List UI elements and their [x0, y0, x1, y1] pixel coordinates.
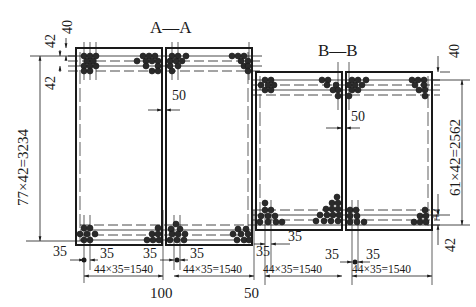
aa-spacing-dim-2: 35	[143, 247, 157, 261]
aa-height-dim: 77×42=3234	[16, 129, 31, 206]
drawing-canvas	[0, 0, 476, 307]
bb-left-edge-dim: 35	[288, 230, 302, 244]
bb-spacing-dim-2: 35	[366, 248, 380, 262]
between-sections-dim: 50	[244, 286, 259, 301]
bb-spacing-dim-1: 35	[325, 248, 339, 262]
bb-top-cover-dim: 40	[448, 44, 462, 58]
section-bb-right-panel	[346, 72, 432, 230]
aa-center-spacing-dim: 100	[150, 286, 173, 301]
section-bb-left-panel	[256, 72, 342, 230]
aa-top-cover-dim: 40	[61, 20, 75, 34]
bb-width-left-dim: 44×35=1540	[263, 264, 322, 276]
section-aa-title: A—A	[150, 19, 192, 36]
aa-spacing-dim-3: 35	[190, 247, 204, 261]
aa-width-right-dim: 44×35=1540	[183, 264, 242, 276]
aa-width-left-dim: 44×35=1540	[94, 264, 153, 276]
aa-gap-dim: 50	[172, 89, 186, 103]
section-bb-title: B—B	[318, 42, 358, 59]
bb-width-right-dim: 44×35=1540	[352, 264, 411, 276]
aa-spacing-dim-4: 35	[256, 245, 270, 259]
aa-spacing-dim-1: 35	[100, 247, 114, 261]
aa-left-edge-dim: 35	[53, 245, 67, 259]
aa-top-spacing-dim-2: 42	[44, 76, 58, 90]
bb-gap-dim: 50	[351, 110, 365, 124]
bb-height-dim: 61×42=2562	[448, 119, 463, 196]
bb-bottom-cover-dim: 42	[444, 238, 458, 252]
aa-top-spacing-dim: 42	[44, 34, 58, 48]
bb-bottom-spacing-dim: 42	[430, 209, 442, 221]
section-aa-right-panel	[166, 48, 252, 245]
section-aa-left-panel	[76, 48, 162, 245]
